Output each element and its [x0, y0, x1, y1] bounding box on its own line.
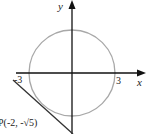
- point-p-label: P(-2, -√5): [0, 117, 37, 129]
- y-axis-arrow-icon: [69, 0, 76, 9]
- x-axis-label: x: [136, 76, 142, 88]
- circle-diagram: y x -3 3 P(-2, -√5): [0, 0, 146, 134]
- tick-label-3: 3: [116, 75, 121, 86]
- y-axis-label: y: [57, 0, 63, 12]
- tick-label-neg3: -3: [14, 74, 22, 85]
